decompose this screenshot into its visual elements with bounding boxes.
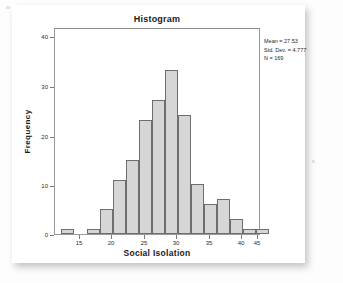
histogram-bar: [61, 229, 74, 234]
y-axis-tick-label: 30: [41, 84, 48, 90]
statistics-annotation: Mean = 27.53 Std. Dev. = 4.777 N = 169: [264, 37, 306, 63]
histogram-bar: [243, 229, 256, 234]
x-axis-tick-label: 35: [206, 240, 213, 246]
y-axis-tick-label: 40: [41, 34, 48, 40]
y-axis-tick-label: 10: [41, 183, 48, 189]
histogram-bar: [217, 199, 230, 234]
y-axis-tick-label: 20: [41, 134, 48, 140]
x-axis-tick: [79, 235, 80, 239]
histogram-bar: [191, 184, 204, 234]
scan-speck: [312, 160, 315, 163]
histogram-bar: [126, 160, 139, 234]
x-axis-title: Social Isolation: [54, 248, 260, 258]
x-axis-tick: [209, 235, 210, 239]
x-axis-tick: [241, 235, 242, 239]
histogram-bar: [100, 209, 113, 234]
stat-std-dev: Std. Dev. = 4.777: [264, 46, 306, 55]
scan-speck: [6, 6, 10, 9]
x-axis-tick-label: 30: [173, 240, 180, 246]
x-axis-tick: [144, 235, 145, 239]
x-axis-tick: [257, 235, 258, 239]
x-axis-tick-label: 15: [76, 240, 83, 246]
histogram-bar: [139, 120, 152, 234]
histogram-bar: [230, 219, 243, 234]
plot-frame: [54, 28, 260, 235]
histogram-bar: [113, 180, 126, 234]
histogram-bars: [55, 27, 261, 234]
histogram-bar: [165, 70, 178, 234]
x-axis-tick: [176, 235, 177, 239]
x-axis-tick-label: 45: [254, 240, 261, 246]
x-axis-tick-label: 20: [108, 240, 115, 246]
chart-title: Histogram: [54, 14, 260, 24]
chart-card: Histogram Frequency 0 10 20 30 40: [12, 5, 305, 263]
histogram-bar: [178, 115, 191, 234]
y-axis-tick-label: 0: [45, 232, 48, 238]
histogram-bar: [152, 100, 165, 234]
plot-area: [55, 29, 259, 234]
histogram-bar: [87, 229, 100, 234]
histogram-bar: [204, 204, 217, 234]
histogram-bar: [256, 229, 269, 234]
y-axis: 0 10 20 30 40: [12, 28, 54, 235]
x-axis-tick: [111, 235, 112, 239]
stat-n: N = 169: [264, 54, 306, 63]
x-axis-tick-label: 40: [238, 240, 245, 246]
stat-mean: Mean = 27.53: [264, 37, 306, 46]
x-axis-tick-label: 25: [141, 240, 148, 246]
